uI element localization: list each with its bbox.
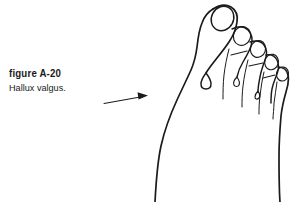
foot-illustration xyxy=(0,0,298,202)
first-web-space-cleft xyxy=(223,49,229,99)
third-toe-outline xyxy=(250,41,266,91)
fourth-toe-crease xyxy=(263,75,275,78)
medial-border-and-bunion xyxy=(155,9,213,202)
third-toe-crease xyxy=(249,63,263,66)
hallux-lateral-outline xyxy=(206,5,237,73)
lateral-border-and-fifth-toe xyxy=(278,67,288,202)
third-toe-tip xyxy=(255,91,260,99)
hallux-nail xyxy=(207,2,238,34)
hallux-tip-pulp xyxy=(201,73,211,89)
fourth-web-space-cleft xyxy=(273,82,277,119)
fourth-toe-outline xyxy=(266,55,279,103)
second-toe-crease xyxy=(231,51,247,55)
figure-plate: figure A-20 Hallux valgus. xyxy=(0,0,298,202)
second-web-space-cleft xyxy=(242,60,248,107)
second-toe-tip xyxy=(234,77,240,87)
